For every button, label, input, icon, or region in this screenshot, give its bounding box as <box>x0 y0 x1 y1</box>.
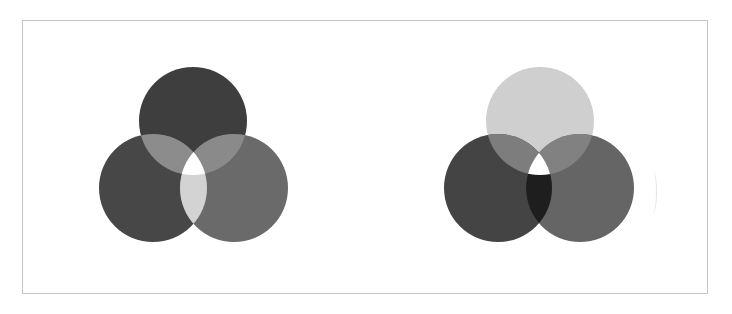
venn-diagrams <box>0 0 732 314</box>
additive-diagram <box>99 67 288 242</box>
subtractive-diagram <box>444 67 634 242</box>
